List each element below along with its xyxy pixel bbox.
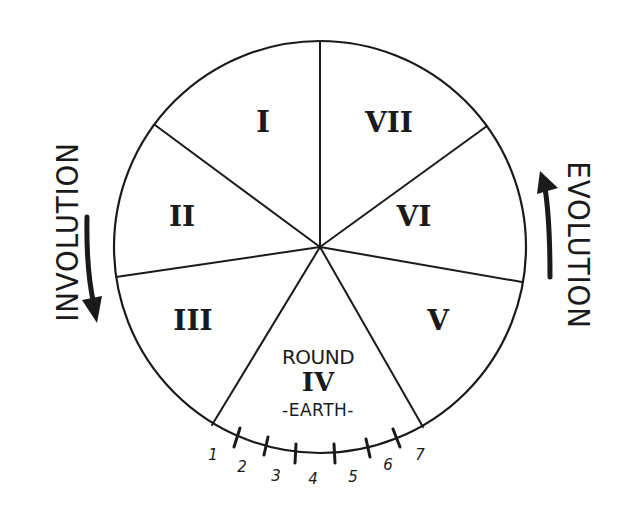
segment-label-vii: VII: [364, 106, 413, 139]
tick-4: [334, 444, 335, 463]
evolution-arrow-icon: [537, 171, 558, 277]
seven-rounds-diagram: I II III V VI VII ROUND IV -EARTH- 1 2 3…: [0, 0, 630, 515]
round-iv-heading: ROUND: [282, 345, 354, 369]
tick-label-2: 2: [237, 458, 247, 476]
segment-label-v: V: [426, 304, 450, 337]
segment-label-ii: II: [169, 200, 195, 233]
round-iv-numeral: IV: [302, 367, 335, 397]
tick-label-7: 7: [415, 446, 425, 464]
involution-arrow-icon: [82, 217, 102, 323]
tick-5: [366, 439, 370, 457]
tick-3: [295, 444, 296, 463]
tick-label-5: 5: [348, 468, 358, 486]
segment-label-vi: VI: [396, 200, 432, 233]
tick-2: [264, 437, 268, 455]
spoke-lower-left: [212, 247, 320, 425]
tick-label-4: 4: [308, 470, 318, 488]
tick-label-1: 1: [208, 446, 218, 464]
spoke-left: [116, 247, 320, 277]
segment-label-iii: III: [173, 304, 212, 337]
spoke-right: [320, 247, 522, 282]
tick-label-6: 6: [383, 456, 393, 474]
involution-label: INVOLUTION: [50, 142, 85, 322]
tick-label-3: 3: [271, 467, 281, 485]
evolution-label: EVOLUTION: [561, 161, 596, 328]
segment-label-i: I: [256, 104, 270, 139]
round-iv-earth-label: -EARTH-: [282, 400, 354, 420]
